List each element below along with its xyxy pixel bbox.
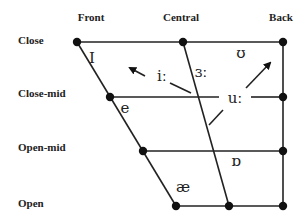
vertex-close-mid-back: [279, 93, 287, 101]
vertex-close-mid-front: [106, 93, 114, 101]
vowel-u-long: uː: [228, 89, 243, 107]
column-label-front: Front: [78, 11, 105, 23]
row-label-close-mid: Close-mid: [18, 87, 66, 99]
vertex-close-front: [73, 38, 81, 46]
arrow-i-long: [130, 68, 145, 76]
vowel-turned-a: ɒ: [231, 152, 241, 170]
vowel-i-long: iː: [157, 67, 167, 85]
vowel-schwa-long: ɜː: [195, 63, 208, 81]
vertex-open-front: [172, 202, 180, 210]
arrow-u-long: [246, 63, 270, 88]
vertex-close-central: [179, 38, 187, 46]
row-label-open: Open: [18, 197, 44, 209]
column-label-central: Central: [163, 11, 199, 23]
vertex-open-back: [279, 202, 287, 210]
row-label-close: Close: [18, 34, 44, 46]
vertex-close-back: [279, 38, 287, 46]
vowel-e: e: [121, 99, 130, 117]
glide-u-long: [209, 110, 223, 125]
column-label-back: Back: [269, 11, 294, 23]
vowel-chart: Front Central Back Close Close-mid Open-…: [0, 0, 308, 223]
vertex-open-mid-front: [139, 147, 147, 155]
vertex-open-central: [225, 202, 233, 210]
row-label-open-mid: Open-mid: [18, 141, 66, 153]
glide-i-long: [170, 83, 191, 93]
vowel-ae: æ: [176, 178, 190, 196]
vowel-I: I: [89, 49, 95, 67]
vowel-upsilon: ʊ: [236, 44, 245, 62]
vertex-open-mid-back: [279, 147, 287, 155]
